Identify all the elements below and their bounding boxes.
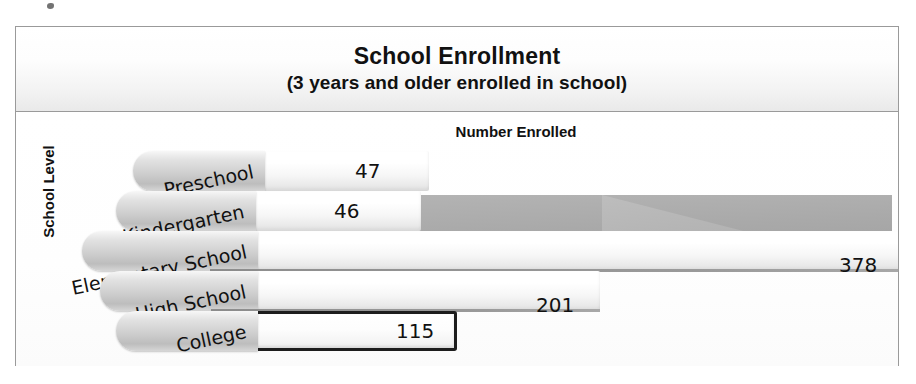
book-stack: Preschool 47 Kindergarten 46 Elementary …: [16, 113, 898, 366]
chart-subtitle: (3 years and older enrolled in school): [287, 72, 628, 93]
bar-label-college: College: [174, 320, 248, 356]
scan-artifact-speck: [47, 3, 54, 9]
bar-value-college: 115: [396, 319, 434, 343]
chart-title: School Enrollment: [354, 44, 561, 70]
bar-value-elementary-school: 378: [839, 253, 877, 277]
bar-spine-high-school: High School: [100, 271, 258, 311]
bar-value-preschool: 47: [355, 159, 380, 183]
bar-body-elementary-school: [210, 231, 898, 271]
bar-spine-kindergarten: Kindergarten: [116, 191, 256, 231]
chart-frame: School Enrollment (3 years and older enr…: [15, 26, 899, 366]
bar-spine-preschool: Preschool: [133, 151, 265, 191]
bar-spine-elementary-school: Elementary School: [82, 231, 258, 271]
chart-plot-area: School Level Number Enrolled Preschool 4…: [16, 113, 898, 366]
bar-spine-college: College: [116, 311, 258, 351]
bar-value-high-school: 201: [536, 293, 574, 317]
chart-title-band: School Enrollment (3 years and older enr…: [16, 27, 898, 112]
bar-value-kindergarten: 46: [334, 199, 359, 223]
